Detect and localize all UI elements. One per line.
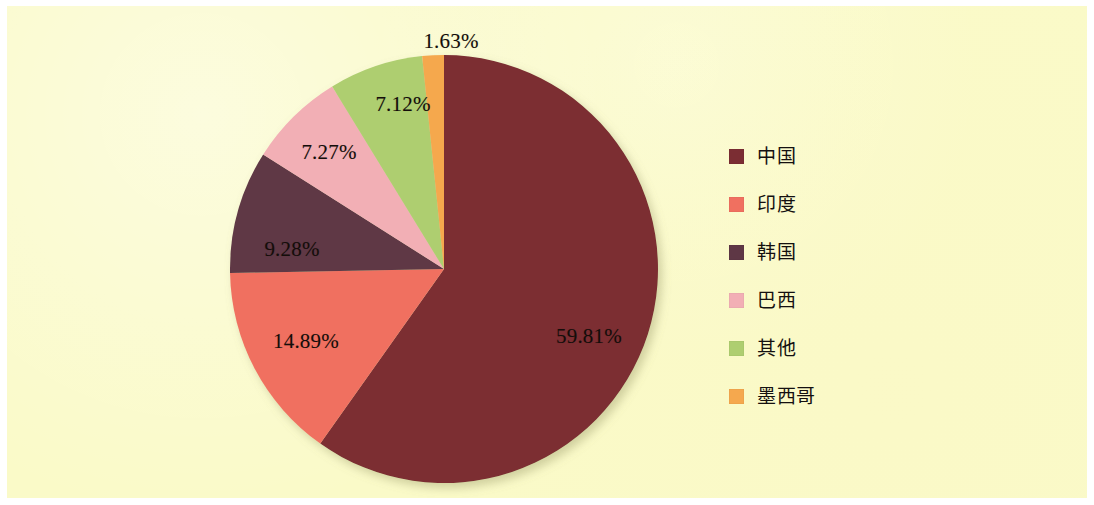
legend-item-label: 印度 <box>757 195 796 214</box>
legend-item[interactable]: 墨西哥 <box>729 372 929 420</box>
legend-item[interactable]: 其他 <box>729 324 929 372</box>
slice-value-label-4: 7.27% <box>301 142 356 163</box>
legend-item[interactable]: 中国 <box>729 132 929 180</box>
legend-item-label: 其他 <box>757 339 796 358</box>
slice-value-label-2: 14.89% <box>273 331 339 352</box>
legend-item-label: 中国 <box>757 147 796 166</box>
slice-value-label-1: 59.81% <box>556 326 622 347</box>
slice-value-label-3: 9.28% <box>264 239 319 260</box>
legend-swatch-icon <box>729 245 744 260</box>
slice-value-label-6: 1.63% <box>423 31 478 52</box>
legend-item[interactable]: 巴西 <box>729 276 929 324</box>
legend-swatch-icon <box>729 149 744 164</box>
legend: 中国印度韩国巴西其他墨西哥 <box>729 132 929 420</box>
legend-swatch-icon <box>729 293 744 308</box>
legend-swatch-icon <box>729 341 744 356</box>
pie-chart-figure: 59.81%14.89%9.28%7.27%7.12%1.63% 中国印度韩国巴… <box>0 0 1094 505</box>
legend-item-label: 墨西哥 <box>757 387 816 406</box>
legend-item-label: 韩国 <box>757 243 796 262</box>
slice-value-label-5: 7.12% <box>375 94 430 115</box>
legend-swatch-icon <box>729 389 744 404</box>
legend-item[interactable]: 韩国 <box>729 228 929 276</box>
pie-slices-group <box>230 55 658 483</box>
legend-swatch-icon <box>729 197 744 212</box>
legend-item-label: 巴西 <box>757 291 796 310</box>
chart-panel: 59.81%14.89%9.28%7.27%7.12%1.63% 中国印度韩国巴… <box>7 6 1087 498</box>
legend-item[interactable]: 印度 <box>729 180 929 228</box>
